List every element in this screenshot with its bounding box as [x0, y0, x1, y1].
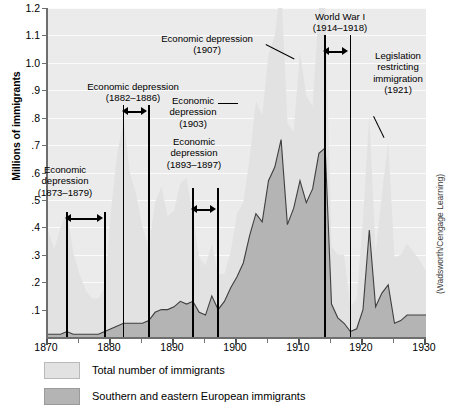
- y-axis-tick-mark: [42, 8, 46, 9]
- y-axis-tick-mark: [42, 255, 46, 256]
- annotation-depression-1893: Economic depression (1893–1897): [155, 136, 233, 170]
- span-arrow-world-war-one: [323, 47, 348, 56]
- y-axis-tick-label: .7: [10, 140, 40, 150]
- y-axis-tick-label: .2: [10, 277, 40, 287]
- event-marker-line-depression-1882-end: [148, 105, 150, 337]
- span-arrow-depression-1873: [65, 214, 103, 223]
- y-axis-tick-mark: [42, 310, 46, 311]
- y-axis-tick-mark: [42, 145, 46, 146]
- legend-item-total: Total number of immigrants: [44, 357, 404, 383]
- arrow-head-right: [97, 214, 103, 222]
- annotation-legislation-1921: Legislation restricting immigration (192…: [358, 50, 438, 96]
- event-marker-line-depression-1873-start: [66, 212, 68, 337]
- publisher-credit: (Wadsworth/Cengage Learning): [435, 159, 447, 309]
- event-marker-line-depression-1882-start: [123, 105, 125, 337]
- legend-label-total: Total number of immigrants: [92, 364, 225, 376]
- legend-item-southern-eastern: Southern and eastern European immigrants: [44, 383, 404, 409]
- y-axis-tick-label: .4: [10, 222, 40, 232]
- x-axis-tick-mark: [361, 339, 363, 345]
- y-axis-tick-mark: [42, 227, 46, 228]
- leader-line-1903: [218, 103, 238, 104]
- y-axis-tick-label: 1.2: [10, 3, 40, 13]
- legend-label-southern-eastern: Southern and eastern European immigrants: [92, 390, 305, 402]
- event-marker-line-world-war-one-start: [324, 35, 326, 337]
- x-axis-minor-tick: [78, 339, 80, 343]
- arrow-bar: [196, 209, 211, 211]
- y-axis-tick-mark: [42, 63, 46, 64]
- annotation-depression-1873: Economic depression (1873–1879): [26, 164, 104, 198]
- x-axis-minor-tick: [393, 339, 395, 343]
- x-axis-minor-tick: [141, 339, 143, 343]
- y-axis-tick-label: .8: [10, 113, 40, 123]
- x-axis-tick-mark: [172, 339, 174, 345]
- span-arrow-depression-1882: [122, 107, 147, 116]
- span-arrow-depression-1893: [191, 205, 216, 214]
- arrow-bar: [127, 111, 142, 113]
- event-marker-line-world-war-one-end: [350, 35, 352, 337]
- y-axis-tick-label: .1: [10, 305, 40, 315]
- arrow-bar: [328, 51, 343, 53]
- y-axis-tick-label: 1.0: [10, 58, 40, 68]
- legend-swatch-total: [44, 362, 80, 379]
- x-axis-tick-mark: [109, 339, 111, 345]
- y-axis-tick-label: 1.1: [10, 30, 40, 40]
- chart-figure: Millions of immigrants 1.21.11.0.9.8.7.6…: [0, 0, 455, 416]
- y-axis-tick-mark: [42, 200, 46, 201]
- annotation-world-war-one: World War I (1914–1918): [293, 11, 387, 34]
- y-axis-tick-mark: [42, 90, 46, 91]
- event-marker-line-depression-1893-end: [217, 188, 219, 337]
- arrow-head-right: [342, 47, 348, 55]
- annotation-depression-1907: Economic depression (1907): [142, 33, 272, 56]
- x-axis-tick-mark: [46, 339, 48, 345]
- legend: Total number of immigrants Southern and …: [44, 357, 404, 409]
- x-axis-tick-mark: [424, 339, 426, 345]
- y-axis-tick-label: .3: [10, 250, 40, 260]
- arrow-bar: [70, 218, 98, 220]
- arrow-head-right: [141, 107, 147, 115]
- annotation-depression-1903: Economic depression (1903): [158, 95, 228, 129]
- x-axis-minor-tick: [330, 339, 332, 343]
- y-axis-tick-mark: [42, 35, 46, 36]
- y-axis-tick-label: .9: [10, 85, 40, 95]
- x-axis-minor-tick: [204, 339, 206, 343]
- event-marker-line-depression-1873-end: [104, 212, 106, 337]
- x-axis-tick-mark: [235, 339, 237, 345]
- legend-swatch-southern-eastern: [44, 388, 80, 405]
- arrow-head-right: [210, 205, 216, 213]
- y-axis-tick-mark: [42, 118, 46, 119]
- x-axis-tick-mark: [298, 339, 300, 345]
- y-axis-tick-mark: [42, 282, 46, 283]
- x-axis-minor-tick: [267, 339, 269, 343]
